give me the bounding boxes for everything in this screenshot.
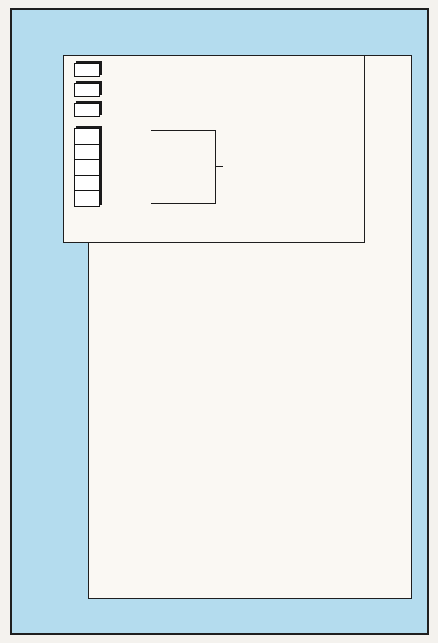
figure-frame: [10, 8, 429, 635]
bars-layer: [12, 10, 427, 633]
